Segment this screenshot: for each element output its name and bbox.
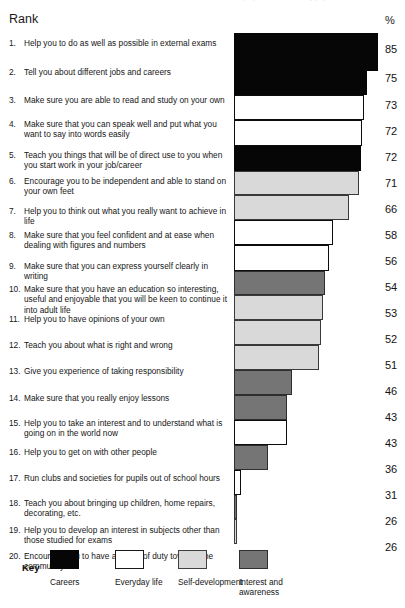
row-label: 8.Make sure that you feel confident and … <box>9 230 227 251</box>
row-statement-text: Make sure that you really enjoy lessons <box>24 393 227 403</box>
ranked-bar-chart: 1.Help you to do as well as possible in … <box>0 33 405 517</box>
bar-interest <box>234 271 325 295</box>
row-label: 14.Make sure that you really enjoy lesso… <box>9 393 227 403</box>
bar-careers <box>234 146 361 171</box>
legend-item: Careers <box>50 550 80 588</box>
bar-value-label: 43 <box>385 411 397 423</box>
row-label: 4.Make sure that you can speak well and … <box>9 119 227 140</box>
bar-careers <box>234 33 378 71</box>
row-rank-number: 1. <box>9 38 24 48</box>
bar-value-label: 46 <box>385 385 397 397</box>
bar-value-label: 75 <box>385 72 397 84</box>
row-rank-number: 2. <box>9 67 24 77</box>
row-label: 11.Help you to have opinions of your own <box>9 314 227 324</box>
bar-careers <box>234 71 367 95</box>
row-statement-text: Help you to have opinions of your own <box>24 314 227 324</box>
row-statement-text: Help you to develop an interest in subje… <box>24 525 227 546</box>
bar-interest <box>234 495 237 519</box>
bar-selfdev <box>234 345 319 370</box>
bar-value-label: 31 <box>385 489 397 501</box>
row-statement-text: Tell you about different jobs and career… <box>24 67 227 77</box>
bar-value-label: 73 <box>385 99 397 111</box>
row-rank-number: 11. <box>9 314 24 324</box>
row-statement-text: Make sure you are able to read and study… <box>24 95 227 105</box>
row-statement-text: Encourage you to be independent and able… <box>24 176 227 197</box>
bar-value-label: 58 <box>385 229 397 241</box>
legend-swatch-selfdev <box>178 550 207 569</box>
row-rank-number: 18. <box>9 498 24 519</box>
row-statement-text: Run clubs and societies for pupils out o… <box>24 473 227 483</box>
row-statement-text: Help you to do as well as possible in ex… <box>24 38 227 48</box>
bar-value-label: 85 <box>385 43 397 55</box>
bar-value-label: 72 <box>385 125 397 137</box>
legend-item: Interest and awareness <box>239 550 283 597</box>
row-statement-text: Teach you about what is right and wrong <box>24 340 227 350</box>
row-rank-number: 17. <box>9 473 24 483</box>
bar-selfdev <box>234 171 359 195</box>
row-rank-number: 9. <box>9 261 24 282</box>
row-rank-number: 6. <box>9 176 24 197</box>
row-statement-text: Make sure that you have an education so … <box>24 284 227 315</box>
row-rank-number: 14. <box>9 393 24 403</box>
bar-everyday <box>234 120 362 146</box>
legend-label: Interest and awareness <box>239 578 283 597</box>
bar-value-label: 56 <box>385 255 397 267</box>
chart-header: Rank % <box>0 12 405 34</box>
row-statement-text: Give you experience of taking responsibi… <box>24 366 227 376</box>
row-label: 9.Make sure that you can express yoursel… <box>9 261 227 282</box>
bar-everyday <box>234 95 364 120</box>
bar-value-label: 52 <box>385 333 397 345</box>
legend-swatch-careers <box>50 550 79 569</box>
legend-item: Self-development <box>178 550 243 588</box>
row-label: 6.Encourage you to be independent and ab… <box>9 176 227 197</box>
bar-value-label: 26 <box>385 515 397 527</box>
bar-everyday <box>234 420 287 445</box>
row-rank-number: 3. <box>9 95 24 105</box>
row-rank-number: 4. <box>9 119 24 140</box>
row-statement-text: Make sure that you can express yourself … <box>24 261 227 282</box>
row-statement-text: Help you to think out what you really wa… <box>24 206 227 227</box>
row-label: 19.Help you to develop an interest in su… <box>9 525 227 546</box>
clipped-header-text: Rank order of purposes of school by pupi… <box>196 0 335 1</box>
bar-everyday <box>234 245 329 271</box>
row-rank-number: 5. <box>9 150 24 171</box>
bar-value-label: 71 <box>385 177 397 189</box>
row-rank-number: 7. <box>9 206 24 227</box>
row-statement-text: Help you to get on with other people <box>24 447 227 457</box>
bar-interest <box>234 370 292 395</box>
bar-interest <box>234 445 268 470</box>
legend-swatch-everyday <box>115 550 144 569</box>
row-label: 13.Give you experience of taking respons… <box>9 366 227 376</box>
bar-selfdev <box>234 295 323 320</box>
bar-value-label: 66 <box>385 203 397 215</box>
row-label: 15.Help you to take an interest and to u… <box>9 418 227 439</box>
row-statement-text: Make sure that you feel confident and at… <box>24 230 227 251</box>
bar-value-label: 72 <box>385 151 397 163</box>
row-statement-text: Make sure that you can speak well and pu… <box>24 119 227 140</box>
row-label: 16.Help you to get on with other people <box>9 447 227 457</box>
row-rank-number: 8. <box>9 230 24 251</box>
page-title: Rank <box>9 12 38 26</box>
row-label: 1.Help you to do as well as possible in … <box>9 38 227 48</box>
row-label: 18.Teach you about bringing up children,… <box>9 498 227 519</box>
row-label: 10.Make sure that you have an education … <box>9 284 227 315</box>
bar-value-label: 36 <box>385 463 397 475</box>
clipped-header-strip: Rank order of purposes of school by pupi… <box>0 0 405 9</box>
bar-selfdev <box>234 519 237 544</box>
bar-interest <box>234 395 287 420</box>
legend-label: Everyday life <box>115 578 163 588</box>
bar-value-label: 43 <box>385 437 397 449</box>
row-label: 12.Teach you about what is right and wro… <box>9 340 227 350</box>
bar-value-label: 51 <box>385 359 397 371</box>
bar-value-label: 54 <box>385 281 397 293</box>
percent-column-header: % <box>385 14 395 26</box>
bar-value-label: 53 <box>385 307 397 319</box>
row-label: 7.Help you to think out what you really … <box>9 206 227 227</box>
bar-everyday <box>234 220 333 245</box>
row-rank-number: 15. <box>9 418 24 439</box>
row-label: 2.Tell you about different jobs and care… <box>9 67 227 77</box>
row-label: 3.Make sure you are able to read and stu… <box>9 95 227 105</box>
row-rank-number: 19. <box>9 525 24 546</box>
row-statement-text: Teach you about bringing up children, ho… <box>24 498 227 519</box>
row-statement-text: Teach you things that will be of direct … <box>24 150 227 171</box>
